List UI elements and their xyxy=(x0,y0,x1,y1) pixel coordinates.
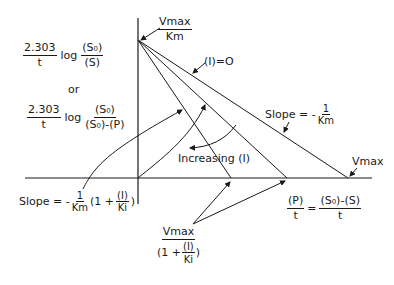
x-intercept-vmax-label: Vmax xyxy=(352,156,384,168)
y1-log: log xyxy=(61,49,78,62)
y1-coef-den: t xyxy=(38,56,42,69)
y2-den: (S₀)-(P) xyxy=(85,118,124,131)
line-label-i-zero: (I)=O xyxy=(204,56,234,68)
y-intercept-label: Vmax Km xyxy=(158,16,192,43)
slope-label-right: Slope = - 1 Km xyxy=(264,103,335,126)
y-label-expr1: 2.303 t log (S₀) (S) xyxy=(22,42,104,69)
arrow-increasing xyxy=(190,125,236,148)
x-intercept-inhibited-label: Vmax (1 + (I) Ki ) xyxy=(157,226,200,265)
y2-log: log xyxy=(65,111,82,124)
y1-den: (S) xyxy=(84,56,100,69)
y1-coef-num: 2.303 xyxy=(23,42,57,56)
arrow-intercept-high xyxy=(193,182,230,224)
y-label-or: or xyxy=(68,84,79,96)
x-axis-label: (P) t = (S₀)-(S) t xyxy=(286,195,362,222)
arrow-intercept-mid xyxy=(193,181,285,224)
increasing-label: Increasing (I) xyxy=(178,153,250,165)
y1-num: (S₀) xyxy=(81,42,103,56)
y-label-expr2: 2.303 t log (S₀) (S₀)-(P) xyxy=(26,104,125,131)
y2-num: (S₀) xyxy=(94,104,116,118)
y2-coef-den: t xyxy=(42,118,46,131)
slope-label-left: Slope = - 1 Km (1 + (I) Ki ) xyxy=(18,190,136,213)
arrow-vmax xyxy=(350,168,357,176)
y2-coef-num: 2.303 xyxy=(27,104,61,118)
